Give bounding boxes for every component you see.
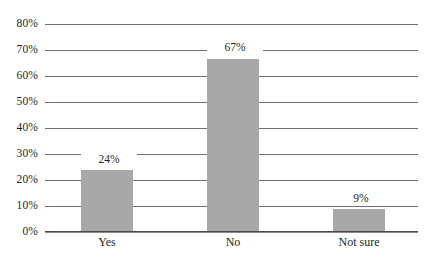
category-label-no: No	[193, 236, 273, 249]
bar-yes	[81, 170, 133, 232]
y-tick-label-50: 50%	[0, 96, 38, 108]
y-tick-label-70: 70%	[0, 44, 38, 56]
y-tick-label-20: 20%	[0, 174, 38, 186]
y-axis-tick-labels: 80% 70% 60% 50% 40% 30% 20% 10% 0%	[0, 24, 38, 232]
axis-baseline	[45, 231, 418, 232]
category-label-not-sure: Not sure	[319, 236, 399, 249]
y-tick-label-10: 10%	[0, 200, 38, 212]
y-tick-label-0: 0%	[0, 226, 38, 238]
y-tick-label-80: 80%	[0, 18, 38, 30]
category-label-yes: Yes	[67, 236, 147, 249]
gridline-80	[45, 24, 418, 25]
y-tick-label-40: 40%	[0, 122, 38, 134]
value-label-not-sure: 9%	[333, 193, 389, 205]
bar-chart: 80% 70% 60% 50% 40% 30% 20% 10% 0% 24% 6…	[0, 0, 428, 255]
value-label-no: 67%	[207, 42, 263, 54]
y-tick-label-60: 60%	[0, 70, 38, 82]
bar-no	[207, 59, 259, 232]
bar-not-sure	[333, 209, 385, 232]
y-tick-label-30: 30%	[0, 148, 38, 160]
value-label-yes: 24%	[81, 154, 137, 166]
